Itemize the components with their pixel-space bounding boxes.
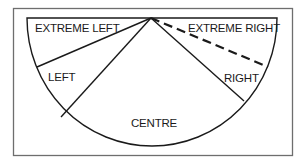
- political-spectrum-diagram: EXTREME LEFT LEFT CENTRE RIGHT EXTREME R…: [0, 0, 302, 162]
- label-extreme-right: EXTREME RIGHT: [188, 22, 280, 34]
- label-centre: CENTRE: [131, 117, 178, 129]
- label-extreme-left: EXTREME LEFT: [35, 22, 120, 34]
- label-left: LEFT: [48, 71, 75, 83]
- label-right: RIGHT: [224, 72, 259, 84]
